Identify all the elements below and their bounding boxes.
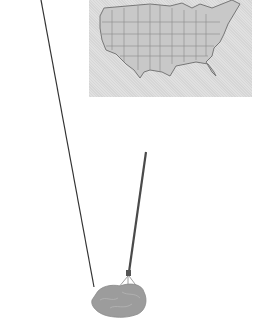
mop-handle — [129, 152, 146, 272]
scene-drawing — [0, 0, 264, 323]
scene — [0, 0, 264, 323]
diagonal-line — [41, 0, 94, 287]
us-map — [100, 0, 240, 78]
mop-clamp — [126, 270, 131, 276]
mop-head — [92, 284, 146, 317]
